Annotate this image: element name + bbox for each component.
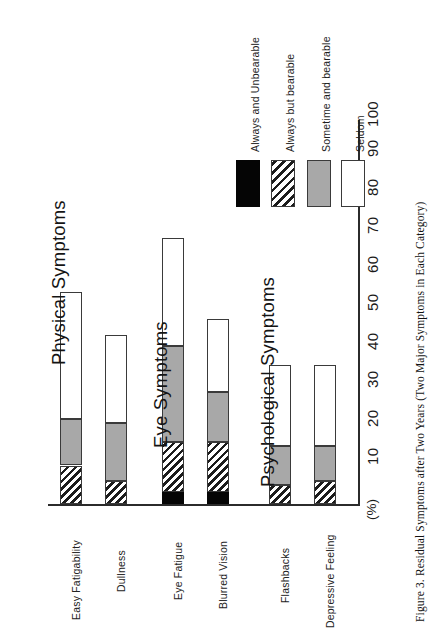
bar-segment-seldom <box>314 365 336 446</box>
axis-tick-10: 10 <box>364 425 381 465</box>
bar-segment-always-but-bearable <box>105 481 127 504</box>
bar-segment-always-but-bearable <box>269 485 291 504</box>
axis-tick-40: 40 <box>364 310 381 350</box>
bar-segment-always-and-unbearable <box>162 492 184 504</box>
category-label-depressive-feeling: Depressive Feeling <box>324 535 336 628</box>
category-label-easy-fatigability: Easy Fatigability <box>70 540 82 620</box>
group-label-eye-symptoms: Eye Symptoms <box>150 321 172 448</box>
group-label-psychological-symptoms: Psychological Symptoms <box>257 277 279 487</box>
bar-segment-always-but-bearable <box>314 481 336 504</box>
legend-label-always-and-unbearable: Always and Unbearable <box>249 37 261 152</box>
category-label-blurred-vision: Blurred Vision <box>217 541 229 609</box>
axis-tick-20: 20 <box>364 387 381 427</box>
legend-label-seldom: Seldom <box>354 115 366 152</box>
category-label-eye-fatigue: Eye Fatigue <box>172 542 184 600</box>
figure-residual-symptoms: 10 20 30 40 50 60 70 80 90 100 (%) <box>0 0 432 636</box>
group-label-physical-symptoms: Physical Symptoms <box>48 200 70 365</box>
axis-tick-30: 30 <box>364 348 381 388</box>
category-label-dullness: Dullness <box>115 550 127 592</box>
legend-swatch-sometime-and-bearable <box>307 160 331 207</box>
axis-tick-50: 50 <box>364 271 381 311</box>
bar-segment-always-and-unbearable <box>207 492 229 504</box>
category-label-flashbacks: Flashbacks <box>279 548 291 603</box>
axis-tick-100: 100 <box>364 87 381 127</box>
axis-tick-60: 60 <box>364 233 381 273</box>
bar-segment-sometime-and-bearable <box>314 446 336 481</box>
bar-segment-always-but-bearable <box>207 442 229 492</box>
legend-label-always-but-bearable: Always but bearable <box>284 54 296 152</box>
axis-unit-label: (%) <box>364 499 379 520</box>
legend-swatch-always-but-bearable <box>271 160 295 207</box>
legend-label-sometime-and-bearable: Sometime and bearable <box>320 36 332 152</box>
bar-segment-always-but-bearable <box>60 466 82 505</box>
figure-caption: Figure 3. Residual Symptoms after Two Ye… <box>414 202 426 622</box>
bar-segment-seldom <box>207 319 229 392</box>
bar-segment-sometime-and-bearable <box>207 392 229 442</box>
axis-tick-70: 70 <box>364 194 381 234</box>
bar-segment-seldom <box>105 335 127 424</box>
legend-swatch-always-and-unbearable <box>236 160 260 207</box>
bar-segment-sometime-and-bearable <box>60 419 82 465</box>
bar-segment-sometime-and-bearable <box>105 423 127 481</box>
category-baseline-axis <box>48 504 360 506</box>
axis-tick-80: 80 <box>364 156 381 196</box>
bar-segment-always-but-bearable <box>162 442 184 492</box>
legend-swatch-seldom <box>341 160 365 207</box>
